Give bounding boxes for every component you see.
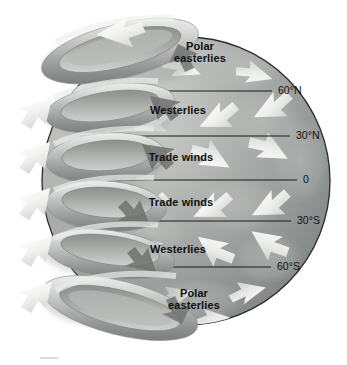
cell-arrow-ferrel-north (17, 98, 52, 129)
latitude-label-equator: 0 (303, 173, 309, 185)
band-label-polar-easterlies-south: Polar easterlies (152, 287, 236, 311)
band-label-line1: Trade winds (134, 196, 228, 208)
band-label-westerlies-south: Westerlies (136, 243, 220, 255)
band-label-line1: Westerlies (136, 243, 220, 255)
band-label-westerlies-north: Westerlies (136, 104, 220, 116)
latitude-label-60n: 60°N (278, 84, 301, 96)
band-label-line2: easterlies (158, 52, 242, 64)
latitude-label-30s: 30°S (297, 214, 320, 226)
band-label-trade-winds-north: Trade winds (134, 151, 228, 163)
latitude-label-60s: 60°S (277, 260, 300, 272)
latitude-label-30n: 30°N (296, 129, 319, 141)
band-label-trade-winds-south: Trade winds (134, 196, 228, 208)
band-label-line1: Polar (158, 40, 242, 52)
band-label-line1: Polar (152, 287, 236, 299)
band-label-line1: Westerlies (136, 104, 220, 116)
band-label-polar-easterlies-north: Polar easterlies (158, 40, 242, 64)
band-label-line1: Trade winds (134, 151, 228, 163)
band-label-line2: easterlies (152, 299, 236, 311)
wind-circulation-figure: Polar easterlies Westerlies Trade winds … (0, 0, 347, 365)
cell-arrow-hadley-south (16, 188, 50, 220)
cell-arrow-ferrel-south (17, 236, 52, 267)
